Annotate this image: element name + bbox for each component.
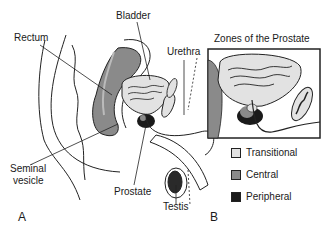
legend-label: Peripheral [246,191,292,202]
panel-letter-b: B [210,210,218,224]
back-contour [72,45,85,180]
leader-prostate [134,125,146,185]
label-rectum: Rectum [14,32,48,43]
testis-shape [168,171,182,193]
label-seminal-vesicle-2: vesicle [13,175,44,186]
zoom-prostate-transitional [247,104,257,112]
transitional-swatch-icon [231,148,241,158]
legend-label: Central [246,169,278,180]
leader-rectum [40,45,112,95]
legend-item-central: Central [231,169,297,180]
label-testis: Testis [163,201,189,212]
label-prostate: Prostate [114,186,151,197]
label-urethra: Urethra [167,46,200,57]
legend-item-peripheral: Peripheral [231,191,297,202]
label-seminal-vesicle-1: Seminal [10,163,46,174]
leader-bladder [137,22,150,80]
legend-item-transitional: Transitional [231,147,297,158]
leader-seminal-vesicle [30,124,118,165]
legend-label: Transitional [246,147,297,158]
zones-legend: Transitional Central Peripheral [231,147,297,213]
central-swatch-icon [231,170,241,180]
peripheral-swatch-icon [231,192,241,202]
label-bladder: Bladder [116,10,150,21]
panel-letter-a: A [18,210,26,224]
leader-testis-2 [188,170,190,205]
skin-outline [39,40,80,200]
prostate-central [140,115,146,121]
leader-urethra-2 [188,58,197,110]
zones-title: Zones of the Prostate [214,33,310,44]
